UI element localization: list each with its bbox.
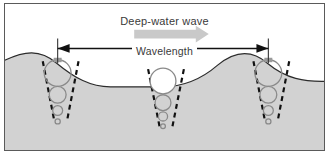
orbit-circle bbox=[266, 119, 271, 124]
orbit-circle bbox=[155, 95, 171, 111]
orbit-circle bbox=[263, 106, 273, 116]
orbit-circle bbox=[53, 106, 63, 116]
orbit-circle bbox=[161, 124, 166, 129]
orbit-circle bbox=[158, 112, 167, 121]
wavelength-label-text: Wavelength bbox=[132, 45, 197, 57]
figure-title-text: Deep-water wave bbox=[120, 15, 209, 27]
figure-title: Deep-water wave bbox=[5, 15, 324, 27]
orbit-circle bbox=[150, 68, 176, 94]
orbit-circle bbox=[260, 86, 277, 103]
orbit-circle bbox=[55, 119, 60, 124]
wavelength-label: Wavelength bbox=[5, 45, 324, 57]
figure-frame: Deep-water wave Wavelength bbox=[4, 3, 325, 151]
deep-water-wave-figure: Deep-water wave Wavelength bbox=[0, 0, 329, 155]
orbit-circle bbox=[49, 86, 66, 103]
